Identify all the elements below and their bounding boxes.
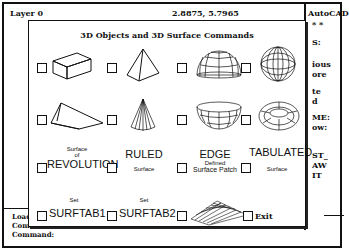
side-menu-stars[interactable]: * * <box>312 19 323 29</box>
side-menu-item[interactable]: d <box>312 96 318 106</box>
coordinate-display: 2.8875, 5.7965 <box>172 8 239 18</box>
rulesurf-option[interactable]: RULED Surface <box>119 148 169 172</box>
mesh-checkbox[interactable] <box>177 211 187 221</box>
command-prompt[interactable]: Command: <box>12 230 54 239</box>
pyramid-icon[interactable] <box>125 47 161 83</box>
side-menu-item[interactable]: te <box>312 86 321 96</box>
mesh-icon[interactable] <box>189 199 249 227</box>
exit-option[interactable]: Exit <box>255 211 273 221</box>
side-menu-item[interactable]: ow: <box>312 122 327 132</box>
tabsurf-option[interactable]: TABULATED Surface <box>249 146 305 172</box>
dialog-title: 3D Objects and 3D Surface Commands <box>29 30 305 40</box>
box-icon[interactable] <box>51 51 93 81</box>
torus-checkbox[interactable] <box>241 115 251 125</box>
surftab2-option[interactable]: Set SURFTAB2 <box>119 197 169 219</box>
side-menu-item[interactable]: IT <box>312 170 322 180</box>
sphere-icon[interactable] <box>259 45 297 83</box>
side-menu-item[interactable]: ore <box>312 69 327 79</box>
dish-checkbox[interactable] <box>177 115 187 125</box>
side-menu-item[interactable]: ST_ <box>312 150 328 160</box>
edgesurf-option[interactable]: EDGE Defined Surface Patch <box>187 148 243 173</box>
wedge-checkbox[interactable] <box>37 115 47 125</box>
side-screen-menu: AutoCAD * * S: ious ore te d ME: ow: ST_… <box>304 4 344 230</box>
surftab1-checkbox[interactable] <box>37 211 47 221</box>
layer-indicator: Layer 0 <box>10 8 43 18</box>
dome-icon[interactable] <box>195 47 243 79</box>
side-menu-item[interactable]: ME: <box>312 112 330 122</box>
edge-checkbox[interactable] <box>177 163 187 173</box>
status-bar: Layer 0 2.8875, 5.7965 <box>4 4 340 18</box>
side-separator <box>324 215 344 216</box>
side-menu-item[interactable]: ious <box>312 59 331 69</box>
cone-icon[interactable] <box>129 97 157 133</box>
side-menu-title[interactable]: AutoCAD <box>308 8 349 18</box>
3d-objects-dialog: 3D Objects and 3D Surface Commands <box>28 20 306 227</box>
dome-checkbox[interactable] <box>177 63 187 73</box>
revolution-checkbox[interactable] <box>37 163 47 173</box>
wedge-icon[interactable] <box>49 101 105 131</box>
sphere-checkbox[interactable] <box>241 63 251 73</box>
box-checkbox[interactable] <box>37 63 47 73</box>
cone-checkbox[interactable] <box>107 115 117 125</box>
dish-icon[interactable] <box>195 101 243 131</box>
torus-icon[interactable] <box>257 99 301 133</box>
ruled-checkbox[interactable] <box>107 163 117 173</box>
side-menu-item[interactable]: S: <box>312 37 321 47</box>
exit-checkbox[interactable] <box>243 211 253 221</box>
side-menu-item[interactable]: AW <box>312 160 327 170</box>
surftab2-checkbox[interactable] <box>107 211 117 221</box>
revsurf-option[interactable]: Surface of REVOLUTION <box>47 146 107 170</box>
surftab1-option[interactable]: Set SURFTAB1 <box>49 197 99 219</box>
pyramid-checkbox[interactable] <box>107 63 117 73</box>
